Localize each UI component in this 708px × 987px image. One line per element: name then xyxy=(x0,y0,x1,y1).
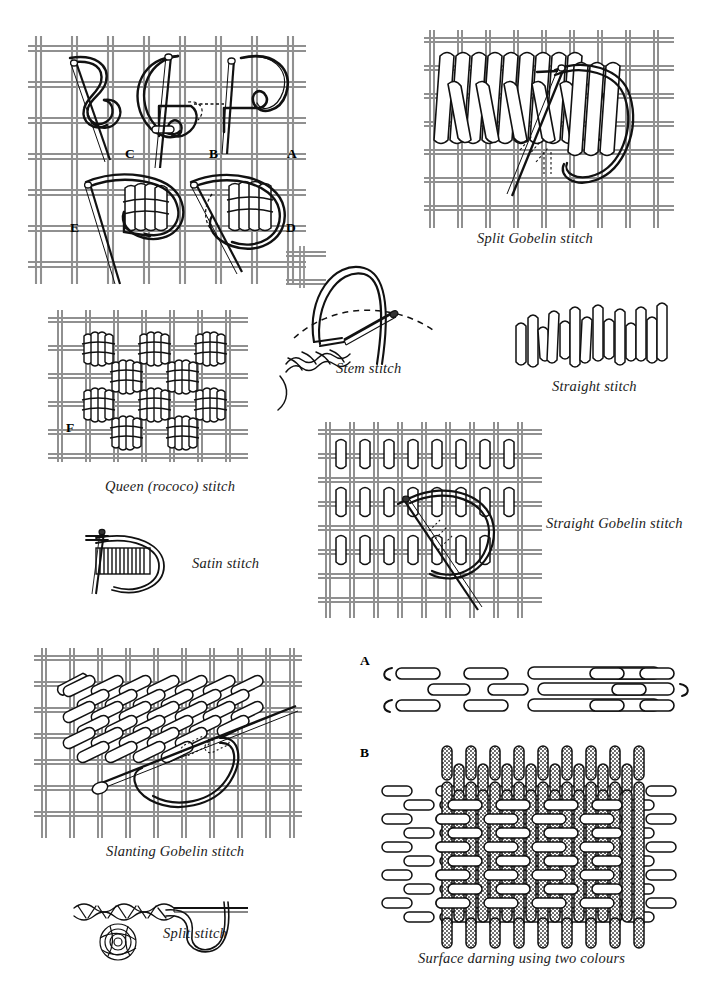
figure-straight-gobelin xyxy=(318,422,542,618)
step-b-needle xyxy=(155,54,172,168)
step-label-b: B xyxy=(209,146,218,162)
step-label-f: F xyxy=(66,420,74,436)
caption-straight-gobelin: Straight Gobelin stitch xyxy=(546,515,683,532)
darning-turn-right xyxy=(680,684,688,696)
figure-surface-darning-b xyxy=(374,742,690,952)
caption-satin-stitch: Satin stitch xyxy=(192,555,259,572)
step-e-needle xyxy=(85,182,120,284)
figure-slanting-gobelin xyxy=(34,648,302,838)
thread-coil xyxy=(100,924,136,960)
figure-surface-darning-a-right xyxy=(588,660,694,720)
straight-stitches xyxy=(516,303,667,367)
stem-needle xyxy=(344,309,399,345)
darning-label-b: B xyxy=(360,745,369,761)
caption-split-gobelin: Split Gobelin stitch xyxy=(477,230,593,247)
figure-satin-stitch xyxy=(78,516,198,604)
split-chain xyxy=(74,904,174,920)
caption-queen-rococo: Queen (rococo) stitch xyxy=(105,478,235,495)
darning-right-capsules xyxy=(590,668,674,711)
figure-straight-stitch xyxy=(508,302,678,374)
satin-block xyxy=(96,548,150,574)
figure-rococo-steps: C B A E D xyxy=(28,36,306,284)
caption-surface-darning: Surface darning using two colours xyxy=(418,950,625,967)
split-needle xyxy=(174,908,248,912)
step-label-e: E xyxy=(70,220,79,236)
split-gobelin-stitches xyxy=(434,53,620,156)
step-a-needle xyxy=(222,58,235,154)
caption-split-stitch: Split stitch xyxy=(163,925,227,942)
step-label-a: A xyxy=(287,146,297,162)
caption-stem-stitch: Stem stitch xyxy=(336,360,401,377)
figure-split-gobelin xyxy=(424,30,674,228)
diagram-page: C B A E D xyxy=(0,0,708,987)
working-thread xyxy=(313,267,386,364)
step-label-d: D xyxy=(286,220,296,236)
darning-turn-left xyxy=(384,668,392,712)
canvas-mesh-fragment xyxy=(286,246,326,288)
step-label-c: C xyxy=(125,146,135,162)
figure-split-stitch xyxy=(70,880,250,960)
stem-rope xyxy=(278,350,350,410)
rococo-blocks xyxy=(82,332,227,450)
darning-label-a: A xyxy=(360,653,370,669)
step-d-bundle xyxy=(227,182,273,231)
step-e-bundle xyxy=(123,184,169,231)
caption-straight-stitch: Straight stitch xyxy=(552,378,637,395)
figure-queen-rococo: F xyxy=(48,310,248,462)
caption-slanting-gobelin: Slanting Gobelin stitch xyxy=(106,843,244,860)
